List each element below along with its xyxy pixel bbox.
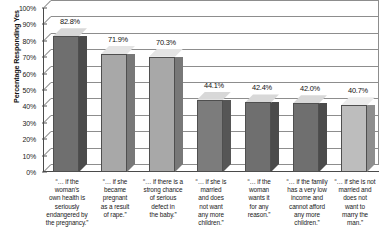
- x-axis-category-label: “… if she is notmarried anddoes notwant …: [328, 178, 382, 227]
- category-label-line: the baby.”: [136, 211, 190, 219]
- bar-value-label: 42.4%: [236, 83, 288, 92]
- y-axis-tick-70: 70%: [6, 54, 36, 61]
- gridline: [51, 33, 379, 34]
- category-label-line: “… if there is a: [136, 178, 190, 186]
- bar-value-label: 82.8%: [44, 17, 96, 26]
- x-axis-category-label: “… if there is astrong chanceof seriousd…: [136, 178, 190, 219]
- category-label-line: children.”: [184, 219, 238, 227]
- bar-side-face: [79, 36, 87, 172]
- category-label-line: woman: [232, 186, 286, 194]
- category-label-line: endangered by: [40, 211, 94, 219]
- category-label-line: wants it: [232, 194, 286, 202]
- bar-value-label: 44.1%: [188, 81, 240, 90]
- y-axis-line: [43, 8, 44, 172]
- y-axis-tick-10: 10%: [6, 152, 36, 159]
- bar-front-face: [53, 36, 79, 172]
- y-axis-tick-30: 30%: [6, 119, 36, 126]
- category-label-line: strong chance: [136, 186, 190, 194]
- y-axis-tick-20: 20%: [6, 136, 36, 143]
- bar-chart: Percentage Responding Yes 100%90%80%70%6…: [0, 0, 386, 240]
- bar-value-label: 71.9%: [92, 35, 144, 44]
- gridline: [51, 49, 379, 50]
- gridline: [51, 16, 379, 17]
- bar-front-face: [197, 100, 223, 172]
- category-label-line: seriously: [40, 203, 94, 211]
- bar-column[interactable]: [101, 54, 127, 172]
- x-axis-category-label: “… if she ismarriedand doesnot wantany m…: [184, 178, 238, 227]
- category-label-line: became: [88, 186, 142, 194]
- x-axis-category-label: “… if thewoman’sown health isseriouslyen…: [40, 178, 94, 227]
- category-label-line: want to: [328, 203, 382, 211]
- bar-column[interactable]: [341, 105, 367, 172]
- y-axis-tick-50: 50%: [6, 87, 36, 94]
- x-axis-category-label: “… if the familyhas a very lowincome and…: [280, 178, 334, 227]
- bar-side-face: [319, 103, 327, 172]
- category-label-line: pregnant: [88, 194, 142, 202]
- category-label-line: man.”: [328, 219, 382, 227]
- category-label-line: reason.”: [232, 211, 286, 219]
- bar-front-face: [245, 102, 271, 172]
- bar-front-face: [293, 103, 319, 172]
- category-label-line: “… if she: [88, 178, 142, 186]
- x-axis-category-label: “… if shebecamepregnantas a resultof rap…: [88, 178, 142, 219]
- category-label-line: any more: [184, 211, 238, 219]
- gridline: [51, 0, 379, 1]
- y-axis-tick-80: 80%: [6, 37, 36, 44]
- category-label-line: of serious: [136, 194, 190, 202]
- y-axis-tick-labels: 100%90%80%70%60%50%40%30%20%10%0%: [4, 0, 36, 240]
- category-label-line: woman’s: [40, 186, 94, 194]
- bar-column[interactable]: [149, 57, 175, 172]
- bar-side-face: [175, 57, 183, 172]
- category-label-line: does not: [328, 194, 382, 202]
- bar-side-face: [223, 100, 231, 172]
- y-axis-tick-100: 100%: [6, 5, 36, 12]
- plot-area: 82.8%71.9%70.3%44.1%42.4%42.0%40.7%: [43, 8, 379, 172]
- category-label-line: cannot afford: [280, 203, 334, 211]
- bar-value-label: 42.0%: [284, 84, 336, 93]
- bar-side-face: [367, 105, 375, 172]
- y-axis-tick-40: 40%: [6, 103, 36, 110]
- bar-column[interactable]: [293, 103, 319, 172]
- category-label-line: married and: [328, 186, 382, 194]
- x-axis-category-label: “… if thewomanwants itfor anyreason.”: [232, 178, 286, 219]
- bar-column[interactable]: [245, 102, 271, 172]
- category-label-line: of rape.”: [88, 211, 142, 219]
- bar-front-face: [341, 105, 367, 172]
- bar-side-face: [271, 102, 279, 172]
- category-label-line: married: [184, 186, 238, 194]
- y-axis-tick-60: 60%: [6, 70, 36, 77]
- category-label-line: not want: [184, 203, 238, 211]
- category-label-line: children.”: [280, 219, 334, 227]
- category-label-line: income and: [280, 194, 334, 202]
- bar-value-label: 70.3%: [140, 38, 192, 47]
- bar-column[interactable]: [197, 100, 223, 172]
- category-label-line: “… if she is: [184, 178, 238, 186]
- bar-side-face: [127, 54, 135, 172]
- category-label-line: for any: [232, 203, 286, 211]
- category-label-line: any more: [280, 211, 334, 219]
- bar-front-face: [149, 57, 175, 172]
- bar-column[interactable]: [53, 36, 79, 172]
- y-axis-tick-90: 90%: [6, 21, 36, 28]
- category-label-line: defect in: [136, 203, 190, 211]
- category-label-line: marry the: [328, 211, 382, 219]
- category-label-line: and does: [184, 194, 238, 202]
- category-label-line: “… if the: [232, 178, 286, 186]
- category-label-line: the pregnancy.”: [40, 219, 94, 227]
- y-axis-tick-0: 0%: [6, 169, 36, 176]
- bar-value-label: 40.7%: [332, 86, 384, 95]
- category-label-line: “… if the family: [280, 178, 334, 186]
- category-label-line: “… if the: [40, 178, 94, 186]
- category-label-line: as a result: [88, 203, 142, 211]
- category-label-line: own health is: [40, 194, 94, 202]
- bar-front-face: [101, 54, 127, 172]
- category-label-line: “… if she is not: [328, 178, 382, 186]
- category-label-line: has a very low: [280, 186, 334, 194]
